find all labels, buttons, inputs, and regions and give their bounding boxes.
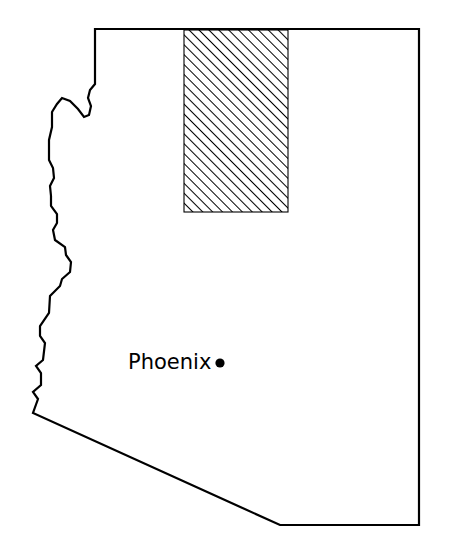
hatched-study-area: [184, 30, 288, 212]
city-dot-phoenix: [215, 358, 224, 367]
arizona-map-svg: Phoenix: [0, 0, 452, 553]
map-canvas: Phoenix: [0, 0, 452, 553]
city-marker-phoenix: Phoenix: [128, 350, 225, 374]
hatched-region-group: [184, 30, 288, 212]
city-label-phoenix: Phoenix: [128, 350, 211, 374]
